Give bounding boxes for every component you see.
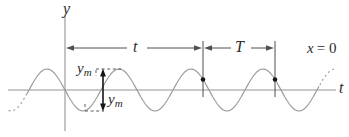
wave-diagram-canvas: | --> | --> bbox=[0, 0, 349, 137]
amplitude-upper-sub: m bbox=[84, 66, 92, 78]
amplitude-arrowhead-down bbox=[100, 104, 106, 112]
amplitude-lower-sub: m bbox=[115, 97, 123, 109]
y-axis-label: y bbox=[63, 1, 70, 17]
crest-guide-dashed bbox=[96, 69, 121, 76]
amplitude-label-upper: ym bbox=[77, 61, 92, 78]
wave-diagram: | --> | --> y t t T x= 0 ym ym bbox=[0, 0, 349, 137]
amplitude-upper-base: y bbox=[77, 60, 84, 76]
wave-point-1 bbox=[201, 77, 206, 82]
wave-point-2 bbox=[273, 77, 278, 82]
T-dim-left-arrowhead bbox=[204, 45, 212, 50]
position-variable: x bbox=[307, 40, 314, 56]
t-axis-label: t bbox=[339, 80, 343, 96]
amplitude-lower-base: y bbox=[108, 91, 115, 107]
position-value: = 0 bbox=[317, 40, 337, 56]
amplitude-label-lower: ym bbox=[108, 92, 123, 109]
period-label: T bbox=[235, 39, 244, 55]
amplitude-arrowhead-up bbox=[100, 69, 106, 77]
T-dim-right-arrowhead bbox=[266, 45, 274, 50]
wave-curve-dotted-left bbox=[9, 94, 27, 111]
t-dim-left-arrowhead bbox=[66, 45, 74, 50]
t-dim-right-arrowhead bbox=[194, 45, 202, 50]
elapsed-time-label: t bbox=[133, 39, 137, 55]
wave-curve-dotted-right bbox=[320, 69, 336, 85]
position-label: x= 0 bbox=[307, 41, 336, 56]
